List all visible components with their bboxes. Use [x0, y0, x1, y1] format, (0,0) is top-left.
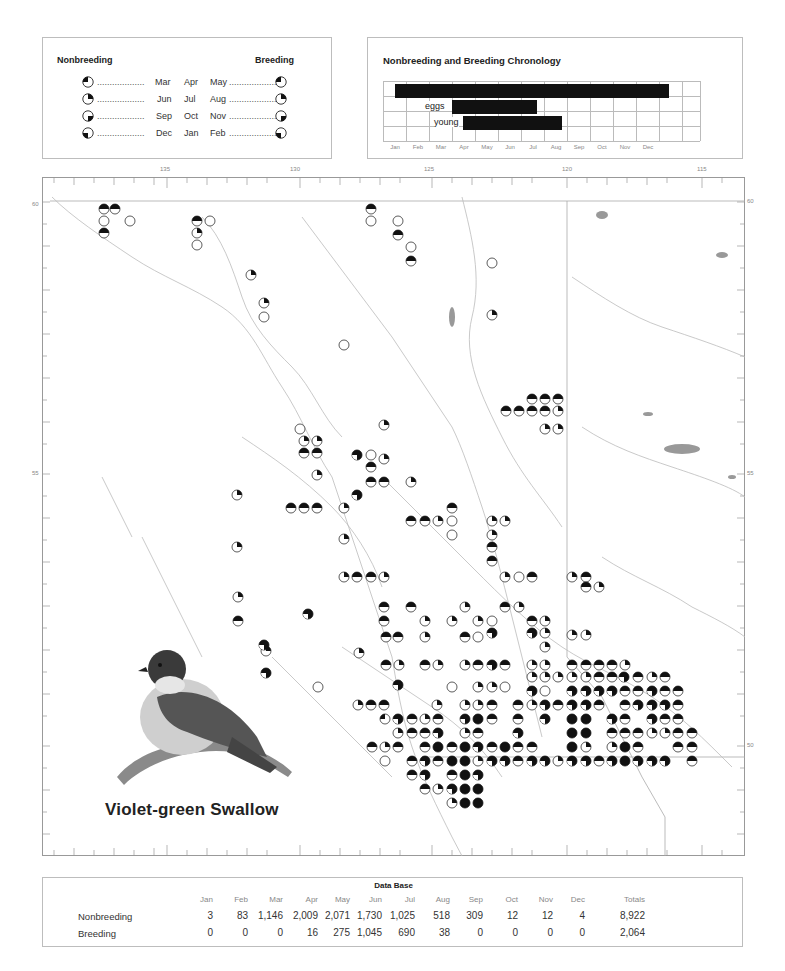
- legend-row: ................... Dec Jan Feb ........…: [43, 128, 333, 142]
- legend-nb-month: Jun: [157, 94, 172, 104]
- legend-nb-month: Mar: [155, 77, 171, 87]
- longitude-label: 115: [697, 166, 707, 172]
- legend-b-month: May: [210, 77, 227, 87]
- legend-row: ................... Sep Oct Nov ........…: [43, 111, 333, 125]
- eggs-label: eggs: [425, 101, 445, 111]
- latitude-label: 60: [747, 198, 754, 204]
- latitude-label: 50: [747, 742, 754, 748]
- database-title: Data Base: [43, 881, 744, 890]
- legend-mid-month: Jul: [184, 94, 196, 104]
- longitude-label: 130: [290, 166, 300, 172]
- quadrant-bottom-right-icon: [82, 110, 94, 124]
- legend-b-month: Feb: [210, 128, 226, 138]
- longitude-label: 120: [562, 166, 572, 172]
- row-label-nonbreeding: Nonbreeding: [78, 911, 132, 922]
- quadrant-top-right-icon: [82, 93, 94, 107]
- legend-row: ................... Jun Jul Aug ........…: [43, 94, 333, 108]
- quadrant-top-left-icon: [275, 76, 287, 90]
- legend-mid-month: Jan: [184, 128, 199, 138]
- quadrant-top-left-icon: [82, 76, 94, 90]
- legend-b-month: Aug: [210, 94, 226, 104]
- nonbreeding-period-bar: [395, 84, 669, 98]
- row-label-breeding: Breeding: [78, 928, 116, 939]
- latitude-label: 55: [747, 470, 754, 476]
- map-canvas: [42, 177, 745, 856]
- longitude-label: 135: [160, 166, 170, 172]
- legend-mid-month: Apr: [184, 77, 198, 87]
- nonbreeding-legend-title: Nonbreeding: [57, 55, 113, 65]
- legend-nb-month: Sep: [156, 111, 172, 121]
- legend-row: ................... Mar Apr May ........…: [43, 77, 333, 91]
- longitude-label: 125: [424, 166, 434, 172]
- season-legend-panel: Nonbreeding Breeding ...................…: [42, 37, 332, 159]
- species-name: Violet-green Swallow: [105, 800, 279, 820]
- legend-b-month: Nov: [210, 111, 226, 121]
- latitude-label: 55: [32, 470, 39, 476]
- chronology-grid: eggs young: [383, 81, 700, 141]
- breeding-legend-title: Breeding: [255, 55, 294, 65]
- legend-mid-month: Oct: [184, 111, 198, 121]
- legend-nb-month: Dec: [156, 128, 172, 138]
- quadrant-bottom-left-icon: [275, 127, 287, 141]
- quadrant-bottom-right-icon: [275, 110, 287, 124]
- young-period-bar: [463, 116, 562, 130]
- eggs-period-bar: [452, 100, 537, 114]
- quadrant-bottom-left-icon: [82, 127, 94, 141]
- chronology-panel: Nonbreeding and Breeding Chronology eggs…: [367, 37, 743, 159]
- chronology-title: Nonbreeding and Breeding Chronology: [383, 55, 561, 66]
- young-label: young: [434, 117, 459, 127]
- latitude-label: 60: [32, 201, 39, 207]
- quadrant-top-right-icon: [275, 93, 287, 107]
- distribution-map: [42, 177, 745, 856]
- database-table: Data Base Jan Feb Mar Apr May Jun Jul Au…: [42, 877, 743, 947]
